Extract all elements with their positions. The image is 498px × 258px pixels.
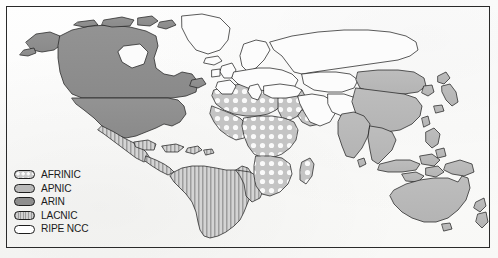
legend-swatch-arin — [14, 197, 35, 206]
legend-item-arin: ARIN — [14, 195, 134, 209]
legend-label-afrinic: AFRINIC — [41, 168, 81, 182]
legend-label-ripencc: RIPE NCC — [41, 222, 88, 236]
legend-swatch-afrinic — [14, 170, 35, 179]
legend-item-ripencc: RIPE NCC — [14, 222, 134, 236]
legend: AFRINIC APNIC ARIN LACNIC RIPE NCC — [14, 168, 134, 236]
legend-label-lacnic: LACNIC — [41, 209, 77, 223]
legend-item-apnic: APNIC — [14, 182, 134, 196]
legend-swatch-apnic — [14, 184, 35, 193]
legend-label-arin: ARIN — [41, 195, 65, 209]
legend-item-lacnic: LACNIC — [14, 209, 134, 223]
legend-label-apnic: APNIC — [41, 182, 71, 196]
legend-swatch-lacnic — [14, 211, 35, 220]
legend-swatch-ripencc — [14, 225, 35, 234]
figure-canvas: AFRINIC APNIC ARIN LACNIC RIPE NCC — [0, 0, 498, 258]
legend-item-afrinic: AFRINIC — [14, 168, 134, 182]
